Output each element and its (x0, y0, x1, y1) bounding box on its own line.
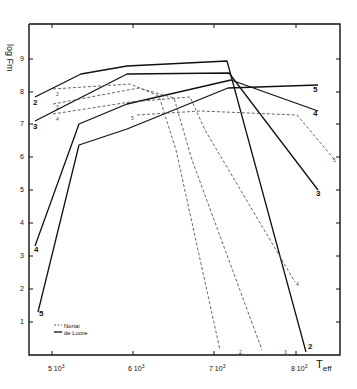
y-tick-label: 9 (20, 55, 24, 63)
curve-label-solid-5-left: 5 (39, 310, 43, 318)
noriai-curve-2 (53, 84, 220, 350)
noriai-curve-3 (53, 88, 262, 350)
curve-label-solid-3-right: 3 (316, 190, 320, 198)
noriai-curve-5 (137, 111, 334, 159)
x-tick-label: 6 103 (128, 362, 144, 373)
noriai-curve-4 (53, 97, 295, 282)
y-tick-label: 6 (20, 153, 24, 161)
curve-label-dashed-5-end: 5 (333, 156, 336, 164)
curve-label-solid-2-bottom: 2 (308, 343, 312, 351)
x-tick-label: 5 103 (48, 362, 64, 373)
curve-label-dashed-4-end: 4 (296, 280, 299, 288)
y-tick-label: 7 (20, 120, 24, 128)
curve-label-solid-4-left: 4 (34, 246, 38, 254)
curve-label-dashed-2-left: 2 (56, 90, 59, 98)
curve-label-solid-4-right: 4 (313, 110, 317, 118)
curve-label-solid-2-left: 2 (33, 99, 37, 107)
x-tick-label: 8 103 (291, 362, 307, 373)
de-loore-curve-4 (35, 80, 318, 246)
noriai-curves (53, 84, 334, 350)
y-axis-label: log Fm (6, 44, 14, 72)
curve-label-dashed-3-left: 3 (56, 103, 59, 111)
curve-label-dashed-3-bottom: 3 (284, 348, 287, 356)
y-tick-label: 8 (20, 88, 24, 96)
de-loore-curve-3 (35, 73, 318, 190)
y-tick-label: 1 (20, 318, 24, 326)
y-tick-label: 5 (20, 186, 24, 194)
y-tick-label: 3 (20, 252, 24, 260)
y-tick-label: 2 (20, 285, 24, 293)
curve-label-solid-3-left: 3 (33, 123, 37, 131)
de-loore-curve-2 (35, 61, 306, 352)
curve-label-solid-5-right: 5 (313, 86, 317, 94)
x-axis-label: Teff (316, 360, 331, 373)
y-tick-label: 4 (20, 219, 24, 227)
x-tick-label: 7 103 (209, 362, 225, 373)
curve-label-dashed-5-mid: 5 (131, 114, 134, 122)
de-loore-curves (35, 61, 318, 352)
legend-de-loore: de Loore (64, 329, 88, 337)
legend-swatches (54, 325, 62, 332)
curve-label-dashed-4-left: 4 (56, 115, 59, 123)
de-loore-curve-5 (38, 85, 318, 312)
chart-plot (0, 0, 357, 389)
curve-label-dashed-2-bottom: 2 (239, 348, 242, 356)
